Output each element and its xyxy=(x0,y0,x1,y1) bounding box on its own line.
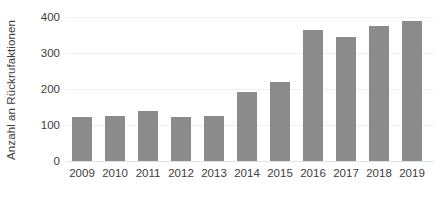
x-tick-label-2012: 2012 xyxy=(168,167,194,179)
x-tick-label-2017: 2017 xyxy=(333,167,359,179)
bar-2013[interactable] xyxy=(204,116,224,161)
plot-area xyxy=(66,10,434,162)
x-axis-tick-labels: 2009 2010 2011 2012 2013 2014 2015 2016 … xyxy=(66,167,434,185)
bar-2017[interactable] xyxy=(336,37,356,161)
bar-2015[interactable] xyxy=(270,82,290,161)
bar-2019[interactable] xyxy=(402,21,422,161)
x-tick-label-2010: 2010 xyxy=(102,167,128,179)
y-tick-label: 0 xyxy=(54,155,60,167)
y-axis-tick-labels: 400 300 200 100 0 xyxy=(22,0,64,202)
x-tick-label-2014: 2014 xyxy=(234,167,260,179)
y-tick-label: 400 xyxy=(41,11,60,23)
bar-2010[interactable] xyxy=(105,116,125,161)
x-tick-label-2018: 2018 xyxy=(366,167,392,179)
x-tick-label-2019: 2019 xyxy=(399,167,425,179)
y-tick-label: 300 xyxy=(41,47,60,59)
bars xyxy=(66,10,434,162)
bar-chart: Anzahl an Rückrufaktionen 400 300 200 10… xyxy=(0,0,441,202)
bar-2009[interactable] xyxy=(72,117,92,161)
y-axis-title: Anzahl an Rückrufaktionen xyxy=(0,0,22,180)
x-tick-label-2016: 2016 xyxy=(300,167,326,179)
bar-2014[interactable] xyxy=(237,92,257,161)
x-tick-label-2011: 2011 xyxy=(136,167,161,179)
x-tick-label-2015: 2015 xyxy=(267,167,293,179)
bar-2011[interactable] xyxy=(138,111,158,161)
y-axis-title-label: Anzahl an Rückrufaktionen xyxy=(5,20,17,160)
y-tick-label: 100 xyxy=(41,119,60,131)
bar-2018[interactable] xyxy=(369,26,389,161)
x-tick-label-2009: 2009 xyxy=(69,167,95,179)
y-tick-label: 200 xyxy=(41,83,60,95)
bar-2016[interactable] xyxy=(303,30,323,161)
x-tick-label-2013: 2013 xyxy=(201,167,227,179)
bar-2012[interactable] xyxy=(171,117,191,161)
